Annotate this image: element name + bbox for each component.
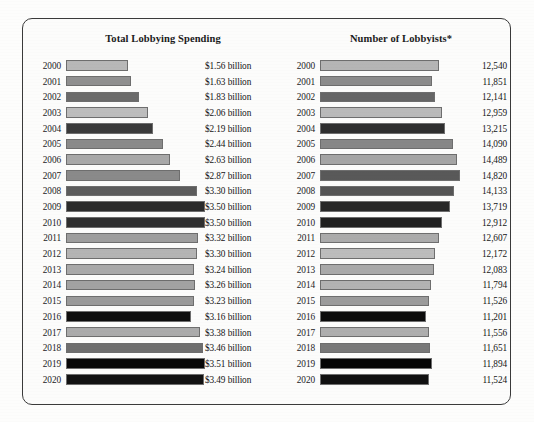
bar-value-label: 12,083 <box>459 265 507 275</box>
bar-value-label: 14,133 <box>459 186 507 196</box>
bar-track <box>320 356 455 372</box>
bar <box>320 296 429 307</box>
bar-row: 2005$2.44 billion <box>31 136 277 152</box>
bar-track <box>320 215 455 231</box>
bar <box>320 92 435 103</box>
bar-year-label: 2016 <box>285 312 315 322</box>
bar-year-label: 2008 <box>285 186 315 196</box>
bar-value-label: $3.30 billion <box>205 249 277 259</box>
bar-row: 200814,133 <box>285 184 507 200</box>
bar-year-label: 2002 <box>285 92 315 102</box>
chart-title-right: Number of Lobbyists* <box>285 33 507 44</box>
bar-row: 200111,851 <box>285 74 507 90</box>
bar-year-label: 2017 <box>285 328 315 338</box>
bar-value-label: 14,090 <box>459 139 507 149</box>
bar-track <box>66 152 201 168</box>
bar <box>320 201 450 212</box>
bar-year-label: 2003 <box>285 108 315 118</box>
bar-year-label: 2018 <box>285 343 315 353</box>
bar-track <box>320 246 455 262</box>
bar-row: 2004$2.19 billion <box>31 121 277 137</box>
bar-value-label: $3.38 billion <box>205 328 277 338</box>
bar-year-label: 2006 <box>285 155 315 165</box>
bar-track <box>320 58 455 74</box>
bar-year-label: 2019 <box>31 359 61 369</box>
chart-frame: Total Lobbying Spending 2000$1.56 billio… <box>22 18 511 405</box>
bar <box>66 76 131 87</box>
bar <box>320 327 429 338</box>
bar-track <box>320 340 455 356</box>
bar <box>66 296 194 307</box>
bar-year-label: 2015 <box>285 296 315 306</box>
bar-row: 2017$3.38 billion <box>31 325 277 341</box>
bar-year-label: 2014 <box>31 280 61 290</box>
bar <box>66 139 163 150</box>
bar-row: 2013$3.24 billion <box>31 262 277 278</box>
bar-track <box>320 325 455 341</box>
bar-track <box>66 58 201 74</box>
bar-value-label: 12,141 <box>459 92 507 102</box>
bar <box>66 123 153 134</box>
bar-year-label: 2002 <box>31 92 61 102</box>
bar-row: 2011$3.32 billion <box>31 231 277 247</box>
bar-year-label: 2013 <box>285 265 315 275</box>
bar-row: 2002$1.83 billion <box>31 89 277 105</box>
bar-value-label: $1.56 billion <box>205 61 277 71</box>
bar-value-label: $2.19 billion <box>205 124 277 134</box>
bar-year-label: 2012 <box>285 249 315 259</box>
bar-track <box>320 293 455 309</box>
bar-track <box>66 105 201 121</box>
bar-track <box>320 231 455 247</box>
chart-panel-total-lobbying-spending: Total Lobbying Spending 2000$1.56 billio… <box>31 19 277 404</box>
bar-row: 201611,201 <box>285 309 507 325</box>
bar <box>320 217 442 228</box>
bar <box>320 123 445 134</box>
bar <box>66 60 128 71</box>
bar-row: 201012,912 <box>285 215 507 231</box>
bar-year-label: 2010 <box>31 218 61 228</box>
bar-value-label: $2.06 billion <box>205 108 277 118</box>
bar-value-label: $3.51 billion <box>205 359 277 369</box>
bar-track <box>66 215 201 231</box>
bar-value-label: 12,912 <box>459 218 507 228</box>
bar-value-label: $3.26 billion <box>205 280 277 290</box>
bar-track <box>66 262 201 278</box>
bar-row: 2008$3.30 billion <box>31 184 277 200</box>
bar-track <box>66 309 201 325</box>
bar-track <box>320 199 455 215</box>
bar <box>66 154 170 165</box>
bar-row: 201312,083 <box>285 262 507 278</box>
bar-row: 200913,719 <box>285 199 507 215</box>
bar-row: 2006$2.63 billion <box>31 152 277 168</box>
bar-row: 2012$3.30 billion <box>31 246 277 262</box>
bar-row: 201212,172 <box>285 246 507 262</box>
bar <box>66 170 180 181</box>
bar <box>66 186 197 197</box>
bar-year-label: 2012 <box>31 249 61 259</box>
bar <box>66 233 198 244</box>
bar <box>66 311 191 322</box>
bar-year-label: 2004 <box>31 124 61 134</box>
bar-track <box>320 262 455 278</box>
bar-track <box>66 325 201 341</box>
bar <box>320 358 432 369</box>
bar-row: 2007$2.87 billion <box>31 168 277 184</box>
bar-row: 200212,141 <box>285 89 507 105</box>
bar-row: 201511,526 <box>285 293 507 309</box>
bar <box>66 107 148 118</box>
bar <box>320 233 439 244</box>
bar-row: 202011,524 <box>285 372 507 388</box>
chart-panel-number-of-lobbyists: Number of Lobbyists* 200012,540200111,85… <box>285 19 507 404</box>
bar-track <box>66 246 201 262</box>
bar-value-label: $2.44 billion <box>205 139 277 149</box>
bar-track <box>320 278 455 294</box>
bar <box>320 60 439 71</box>
bar <box>66 217 205 228</box>
bar <box>66 92 139 103</box>
bar <box>320 139 453 150</box>
bar-row: 2000$1.56 billion <box>31 58 277 74</box>
bar-rows-right: 200012,540200111,851200212,141200312,959… <box>285 58 507 387</box>
bar-track <box>66 231 201 247</box>
bar <box>320 154 457 165</box>
bar <box>66 343 203 354</box>
